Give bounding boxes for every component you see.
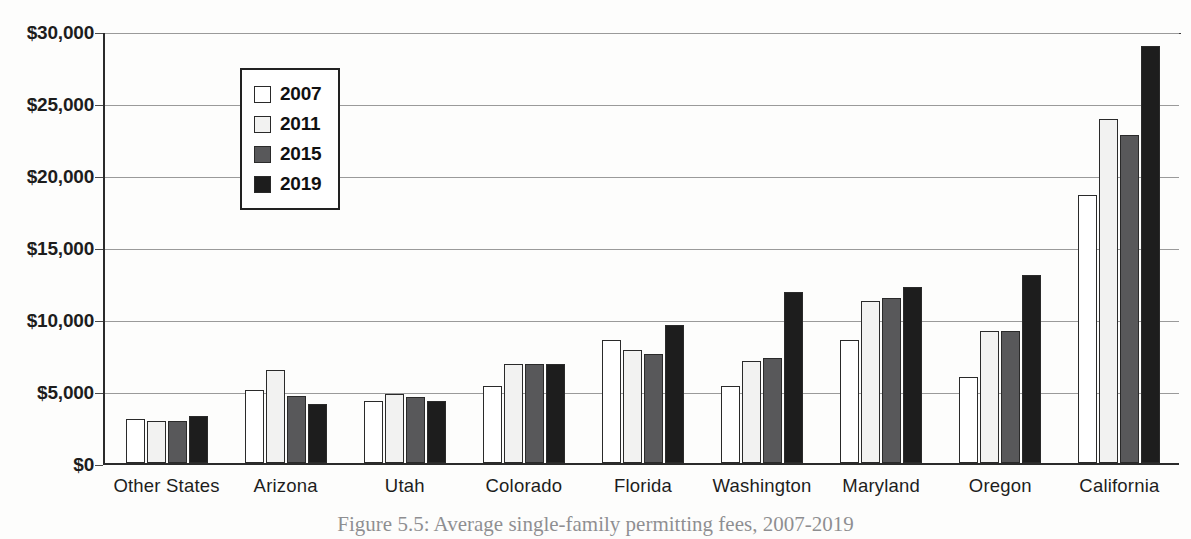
bar[interactable]	[721, 386, 740, 463]
x-axis-label: Other States	[113, 475, 219, 497]
bar[interactable]	[427, 401, 446, 463]
bar[interactable]	[385, 394, 404, 463]
y-axis-label: $10,000	[27, 310, 94, 332]
bar[interactable]	[763, 358, 782, 463]
figure-caption: Figure 5.5: Average single-family permit…	[0, 512, 1191, 537]
bar[interactable]	[1001, 331, 1020, 463]
legend-label: 2019	[280, 173, 321, 195]
y-axis-label: $15,000	[27, 238, 94, 260]
bar-group: Florida	[583, 33, 702, 463]
bar[interactable]	[189, 416, 208, 463]
bar[interactable]	[742, 361, 761, 463]
y-axis-tick	[95, 465, 103, 466]
bar[interactable]	[147, 421, 166, 463]
bar-group: Utah	[345, 33, 464, 463]
bar[interactable]	[546, 364, 565, 463]
x-axis-label: Utah	[385, 475, 425, 497]
x-axis-label: California	[1079, 475, 1159, 497]
bar[interactable]	[525, 364, 544, 463]
bar[interactable]	[602, 340, 621, 463]
y-axis-tick	[95, 105, 103, 106]
chart-page: Other StatesArizonaUtahColoradoFloridaWa…	[0, 0, 1191, 539]
bar[interactable]	[1078, 195, 1097, 463]
bar-group: Oregon	[941, 33, 1060, 463]
bar[interactable]	[980, 331, 999, 463]
x-axis-label: Washington	[713, 475, 812, 497]
bar[interactable]	[882, 298, 901, 463]
y-axis-tick	[95, 393, 103, 394]
bar[interactable]	[623, 350, 642, 463]
legend-swatch-icon	[254, 86, 271, 103]
bar[interactable]	[861, 301, 880, 463]
y-axis-label: $5,000	[37, 382, 94, 404]
bar[interactable]	[1022, 275, 1041, 463]
bar[interactable]	[504, 364, 523, 463]
y-axis-label: $25,000	[27, 94, 94, 116]
bar[interactable]	[406, 397, 425, 463]
bar[interactable]	[903, 287, 922, 463]
bar[interactable]	[168, 421, 187, 463]
bar[interactable]	[644, 354, 663, 463]
legend-label: 2011	[280, 113, 320, 135]
bar-group: Colorado	[464, 33, 583, 463]
bar-group: California	[1060, 33, 1179, 463]
y-axis-tick	[95, 321, 103, 322]
y-axis-tick	[95, 177, 103, 178]
bar[interactable]	[840, 340, 859, 463]
x-axis-label: Oregon	[969, 475, 1032, 497]
bar[interactable]	[245, 390, 264, 463]
bar[interactable]	[959, 377, 978, 463]
legend-swatch-icon	[254, 176, 271, 193]
x-axis-label: Colorado	[486, 475, 563, 497]
legend-label: 2015	[280, 143, 321, 165]
x-axis-label: Arizona	[254, 475, 318, 497]
legend-swatch-icon	[254, 146, 271, 163]
chart-legend: 2007201120152019	[240, 68, 340, 210]
y-axis-tick	[95, 249, 103, 250]
bar[interactable]	[287, 396, 306, 463]
bar[interactable]	[784, 292, 803, 463]
bar-group: Maryland	[822, 33, 941, 463]
bar[interactable]	[266, 370, 285, 463]
legend-label: 2007	[280, 83, 321, 105]
bar[interactable]	[308, 404, 327, 463]
legend-item[interactable]: 2011	[254, 109, 321, 139]
bar[interactable]	[1099, 119, 1118, 463]
bar-group: Washington	[703, 33, 822, 463]
x-axis-label: Maryland	[842, 475, 920, 497]
legend-swatch-icon	[254, 116, 271, 133]
legend-item[interactable]: 2007	[254, 79, 321, 109]
bar[interactable]	[126, 419, 145, 463]
bar[interactable]	[665, 325, 684, 463]
bar[interactable]	[1120, 135, 1139, 463]
y-axis-label: $30,000	[27, 22, 94, 44]
y-axis-label: $20,000	[27, 166, 94, 188]
legend-item[interactable]: 2019	[254, 169, 321, 199]
x-axis-label: Florida	[614, 475, 672, 497]
bar-group: Other States	[107, 33, 226, 463]
legend-item[interactable]: 2015	[254, 139, 321, 169]
y-axis-tick	[95, 33, 103, 34]
y-axis-label: $0	[73, 454, 94, 476]
bar[interactable]	[483, 386, 502, 463]
bar[interactable]	[364, 401, 383, 463]
bar[interactable]	[1141, 46, 1160, 463]
